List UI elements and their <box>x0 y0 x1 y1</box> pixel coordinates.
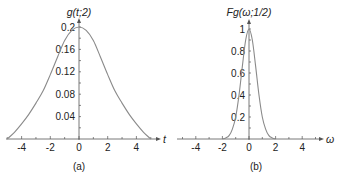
y-axis-title: Fg(ω;1/2) <box>227 6 272 18</box>
panel-b-fourier-g: -4-20240.20.40.60.81Fg(ω;1/2)ω(b) <box>177 6 334 172</box>
x-tick-label: -2 <box>46 142 55 153</box>
x-tick-label: -4 <box>191 142 200 153</box>
y-tick-label: 0.2 <box>231 112 245 123</box>
x-tick-label: 0 <box>76 142 82 153</box>
y-tick-label: 0.6 <box>231 68 245 79</box>
y-tick-label: 0.08 <box>56 89 76 100</box>
x-tick-label: 0 <box>246 142 252 153</box>
x-tick-label: 4 <box>299 142 305 153</box>
x-axis-arrow-icon <box>156 137 161 141</box>
x-axis-title: t <box>163 133 167 145</box>
y-tick-label: 0.04 <box>56 111 76 122</box>
x-tick-label: -2 <box>218 142 227 153</box>
panel-a-g-t: -4-20240.040.080.120.160.2g(t;2)t(a) <box>6 6 167 172</box>
y-axis-title: g(t;2) <box>67 6 92 18</box>
panel-caption: (a) <box>73 161 85 172</box>
x-tick-label: 2 <box>273 142 279 153</box>
y-tick-label: 1 <box>239 24 245 35</box>
x-axis-title: ω <box>326 133 334 145</box>
y-tick-label: 0.12 <box>56 66 76 77</box>
figure: -4-20240.040.080.120.160.2g(t;2)t(a) -4-… <box>0 0 337 181</box>
panel-caption: (b) <box>250 161 262 172</box>
x-tick-label: 4 <box>134 142 140 153</box>
x-tick-label: 2 <box>105 142 111 153</box>
y-axis-arrow-icon <box>247 19 251 24</box>
y-tick-label: 0.2 <box>61 22 75 33</box>
x-tick-label: -4 <box>17 142 26 153</box>
y-axis-arrow-icon <box>77 18 81 23</box>
x-axis-arrow-icon <box>319 137 324 141</box>
